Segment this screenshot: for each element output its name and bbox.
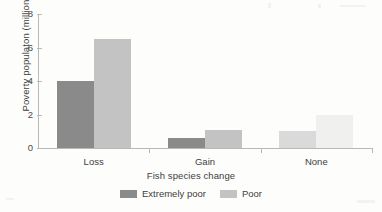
bar: [57, 81, 94, 148]
legend-label: Poor: [242, 188, 262, 199]
bar: [94, 39, 131, 148]
y-tick: 8: [38, 14, 44, 15]
y-tick: 0: [38, 148, 44, 149]
y-tick-label: 4: [28, 75, 33, 86]
legend-label: Extremely poor: [142, 188, 206, 199]
y-tick: 4: [38, 81, 44, 82]
x-tick-label: Gain: [195, 156, 215, 167]
x-axis-line: [38, 148, 372, 149]
y-tick-label: 8: [28, 8, 33, 19]
bar: [205, 130, 242, 148]
y-tick: 6: [38, 48, 44, 49]
bar: [168, 138, 205, 148]
legend-item[interactable]: Extremely poor: [120, 188, 206, 199]
y-tick-label: 6: [28, 42, 33, 53]
y-tick-mark: [37, 148, 42, 149]
scan-artifact: [340, 5, 366, 7]
bar: [279, 131, 316, 148]
y-tick-mark: [37, 48, 42, 49]
legend-swatch-icon: [220, 190, 237, 198]
chart-legend: Extremely poorPoor: [0, 188, 382, 199]
y-tick-label: 0: [28, 142, 33, 153]
x-tick-label: None: [305, 156, 328, 167]
y-tick-mark: [37, 81, 42, 82]
legend-item[interactable]: Poor: [220, 188, 262, 199]
scan-artifact: [357, 200, 375, 203]
plot-area: 02468: [38, 14, 372, 148]
y-tick-label: 2: [28, 109, 33, 120]
legend-swatch-icon: [120, 190, 137, 198]
chart-figure: Poverty populaton (millions) 02468 LossG…: [0, 0, 382, 212]
x-tick-label: Loss: [84, 156, 104, 167]
scan-artifact: [318, 4, 321, 8]
x-axis-title: Fish species change: [0, 170, 382, 181]
y-tick: 2: [38, 115, 44, 116]
x-tick-mark: [149, 148, 150, 153]
y-tick-mark: [37, 14, 42, 15]
bar: [316, 115, 353, 149]
x-tick-mark: [372, 148, 373, 153]
scan-artifact: [268, 3, 271, 8]
x-tick-mark: [261, 148, 262, 153]
y-tick-mark: [37, 115, 42, 116]
